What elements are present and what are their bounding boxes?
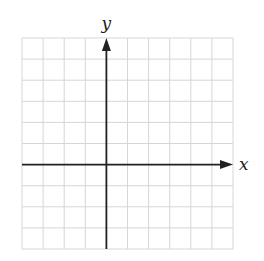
x-axis-label: x (239, 154, 249, 174)
grid-lines (22, 38, 233, 249)
y-axis-arrow-icon (102, 38, 111, 51)
coordinate-plane: x y (0, 0, 264, 261)
x-axis-arrow-icon (220, 160, 233, 169)
y-axis-label: y (100, 13, 111, 33)
